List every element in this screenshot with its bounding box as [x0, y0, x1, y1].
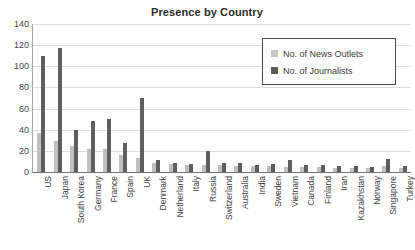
- x-axis-tick-label: Russia: [208, 150, 218, 176]
- x-axis-label-slot: Norway: [361, 174, 377, 248]
- x-axis-tick-label: Canada: [306, 146, 316, 176]
- x-axis-label-slot: Spain: [114, 174, 130, 248]
- x-axis-label-slot: Japan: [48, 174, 64, 248]
- x-axis-label-slot: Kazakhstan: [344, 174, 360, 248]
- bar-journalists: [41, 56, 45, 172]
- legend-item-journalists: No. of Journalists: [271, 62, 395, 79]
- bar-group: [132, 24, 148, 172]
- x-axis-tick-label: Singapore: [388, 137, 398, 176]
- y-axis-tick-label: 140: [0, 19, 29, 29]
- x-axis-tick-label: Denmark: [158, 142, 168, 176]
- x-axis-label-slot: Iran: [328, 174, 344, 248]
- x-axis-label-slot: Germany: [81, 174, 97, 248]
- x-axis-tick-label: Sweden: [273, 145, 283, 176]
- chart-title: Presence by Country: [0, 6, 414, 18]
- y-axis-tick-label: 100: [0, 61, 29, 71]
- bar-group: [33, 24, 49, 172]
- x-axis-label-slot: US: [32, 174, 48, 248]
- legend-swatch-icon-journalists: [271, 67, 278, 74]
- x-axis-tick-label: Switzerland: [224, 132, 234, 176]
- x-axis-label-slot: Vietnam: [279, 174, 295, 248]
- y-axis-tick-label: 60: [0, 104, 29, 114]
- x-axis-label-slot: South Korea: [65, 174, 81, 248]
- x-axis-label-slot: Singapore: [377, 174, 393, 248]
- x-axis-label-slot: Switzerland: [213, 174, 229, 248]
- x-axis-label-slot: France: [98, 174, 114, 248]
- x-axis-tick-label: Spain: [125, 154, 135, 176]
- x-axis-tick-label: Japan: [60, 153, 70, 176]
- x-axis-tick-label: Norway: [372, 147, 382, 176]
- x-axis-label-slot: Italy: [180, 174, 196, 248]
- x-axis-label-slot: Sweden: [262, 174, 278, 248]
- x-axis-tick-label: Netherland: [175, 134, 185, 176]
- x-axis-tick-label: South Korea: [76, 129, 86, 176]
- x-axis-tick-label: Turkey: [405, 150, 415, 176]
- legend-swatch-icon-news-outlets: [271, 50, 278, 57]
- bar-group: [49, 24, 65, 172]
- x-axis-label-slot: Australia: [229, 174, 245, 248]
- legend-label-journalists: No. of Journalists: [283, 66, 353, 76]
- x-axis-tick-label: Kazakhstan: [356, 132, 366, 176]
- x-axis-tick-label: Vietnam: [290, 145, 300, 176]
- y-axis-tick-label: 40: [0, 125, 29, 135]
- x-axis-tick-label: Finland: [323, 148, 333, 176]
- y-axis-tick-label: 120: [0, 40, 29, 50]
- x-axis-label-slot: Finland: [311, 174, 327, 248]
- x-axis-label-slot: UK: [131, 174, 147, 248]
- x-axis-tick-label: France: [109, 150, 119, 176]
- x-axis-label-slot: Denmark: [147, 174, 163, 248]
- x-axis-tick-label: Germany: [93, 141, 103, 176]
- x-axis-label-slot: Turkey: [394, 174, 410, 248]
- bar-journalists: [140, 98, 144, 172]
- y-axis-tick-label: 80: [0, 82, 29, 92]
- x-axis-labels: USJapanSouth KoreaGermanyFranceSpainUKDe…: [32, 174, 410, 248]
- x-axis-label-slot: Canada: [295, 174, 311, 248]
- legend-item-news-outlets: No. of News Outlets: [271, 45, 395, 62]
- x-axis-tick-label: Australia: [240, 143, 250, 176]
- x-axis-label-slot: Russia: [196, 174, 212, 248]
- y-axis-tick-label: 0: [0, 167, 29, 177]
- x-axis-label-slot: Netherland: [164, 174, 180, 248]
- legend-label-news-outlets: No. of News Outlets: [283, 49, 363, 59]
- chart-legend: No. of News Outlets No. of Journalists: [262, 38, 396, 85]
- y-axis-tick-label: 20: [0, 146, 29, 156]
- x-axis-label-slot: India: [246, 174, 262, 248]
